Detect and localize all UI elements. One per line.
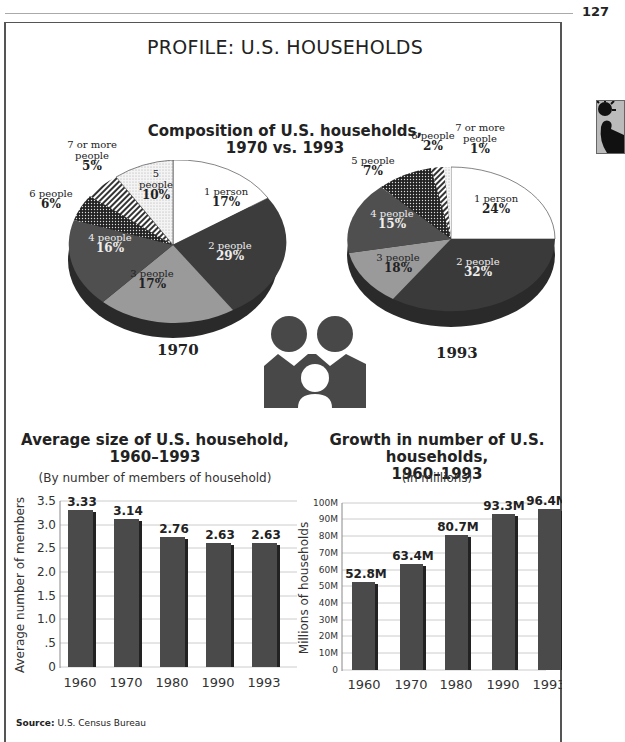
sun-hand-icon <box>596 100 625 154</box>
source-note: Source: U.S. Census Bureau <box>16 718 146 728</box>
svg-text:1990: 1990 <box>486 677 519 692</box>
svg-text:52.8M: 52.8M <box>345 567 387 581</box>
svg-text:Millions of households: Millions of households <box>297 522 311 654</box>
growth-subtitle: (In millions) <box>292 471 582 485</box>
growth-bar-chart: 010M20M 30M40M50M 60M70M80M 90M100M Mill… <box>292 490 562 700</box>
svg-text:1980: 1980 <box>155 675 188 690</box>
svg-text:1.0: 1.0 <box>37 612 56 626</box>
pie1970-label-6-people: 6 people6% <box>26 188 76 210</box>
svg-text:0: 0 <box>48 660 56 674</box>
svg-text:3.33: 3.33 <box>67 495 97 509</box>
svg-text:50M: 50M <box>319 581 338 591</box>
avg-size-bar-chart: 0.51.0 1.52.02.5 3.03.5 Average number o… <box>10 490 300 700</box>
svg-text:3.0: 3.0 <box>37 518 56 532</box>
source-text: U.S. Census Bureau <box>57 718 146 728</box>
source-label: Source: <box>16 718 55 728</box>
family-icon <box>262 308 368 408</box>
svg-text:1990: 1990 <box>201 675 234 690</box>
avg-size-title: Average size of U.S. household, 1960–199… <box>10 432 300 466</box>
svg-text:0: 0 <box>332 665 338 675</box>
svg-text:30M: 30M <box>319 615 338 625</box>
svg-text:93.3M: 93.3M <box>483 499 525 513</box>
svg-text:1970: 1970 <box>394 677 427 692</box>
growth-title-line1: Growth in number of U.S. households, <box>292 432 582 466</box>
pie1993-label-3-people: 3 people18% <box>368 252 428 274</box>
svg-text:1.5: 1.5 <box>37 589 56 603</box>
pie1970-label-4-people: 4 people16% <box>82 232 138 254</box>
svg-text:80M: 80M <box>319 531 338 541</box>
svg-text:20M: 20M <box>319 631 338 641</box>
pie1993-label-2-people: 2 people32% <box>448 256 508 278</box>
pie-title-line1: Composition of U.S. households, <box>120 123 450 140</box>
svg-text:1960: 1960 <box>347 677 380 692</box>
svg-text:40M: 40M <box>319 598 338 608</box>
svg-text:60M: 60M <box>319 565 338 575</box>
avg-size-title-line2: 1960–1993 <box>10 449 300 466</box>
pie1993-label-4-people: 4 people15% <box>364 208 420 230</box>
pie1970-label-5-people: 5 people10% <box>136 168 176 201</box>
pie1993-label-6-people: 6 people2% <box>408 130 458 152</box>
pie1970-label-7-people: 7 or more people5% <box>62 139 122 172</box>
top-rule <box>5 13 573 14</box>
svg-text:10M: 10M <box>319 648 338 658</box>
svg-text:Average number of members: Average number of members <box>13 497 27 673</box>
pie1993-label-1-person: 1 person24% <box>466 193 526 215</box>
svg-text:2.5: 2.5 <box>37 541 56 555</box>
pie1970-label-3-people: 3 people17% <box>122 268 182 290</box>
svg-text:1960: 1960 <box>63 675 96 690</box>
svg-text:1970: 1970 <box>109 675 142 690</box>
svg-text:3.14: 3.14 <box>113 504 143 518</box>
pie-title-line2: 1970 vs. 1993 <box>120 140 450 157</box>
pie1993-label-7-people: 7 or more people1% <box>452 122 508 155</box>
pie1993-label-5-people: 5 people7% <box>348 155 398 177</box>
svg-text:2.76: 2.76 <box>159 522 189 536</box>
pie1970-label-2-people: 2 people29% <box>200 240 260 262</box>
svg-text:1980: 1980 <box>439 677 472 692</box>
pie1970-label-1-person: 1 person17% <box>196 186 256 208</box>
svg-text:2.0: 2.0 <box>37 565 56 579</box>
svg-text:100M: 100M <box>313 498 338 508</box>
svg-text:96.4M: 96.4M <box>526 494 562 508</box>
svg-text:2.63: 2.63 <box>205 528 235 542</box>
pie-chart-title: Composition of U.S. households, 1970 vs.… <box>120 123 450 157</box>
page-number: 127 <box>582 4 609 19</box>
avg-size-title-line1: Average size of U.S. household, <box>10 432 300 449</box>
svg-text:2.63: 2.63 <box>251 528 281 542</box>
pie-year-1970: 1970 <box>157 341 199 359</box>
svg-text:.5: .5 <box>45 636 56 650</box>
svg-text:3.5: 3.5 <box>37 494 56 508</box>
pie-year-1993: 1993 <box>436 344 478 362</box>
svg-text:90M: 90M <box>319 514 338 524</box>
svg-text:1993: 1993 <box>247 675 280 690</box>
svg-text:1993: 1993 <box>532 677 562 692</box>
avg-size-subtitle: (By number of members of household) <box>10 471 300 485</box>
svg-text:63.4M: 63.4M <box>392 549 434 563</box>
svg-text:80.7M: 80.7M <box>437 520 479 534</box>
svg-text:70M: 70M <box>319 548 338 558</box>
page-title: PROFILE: U.S. HOUSEHOLDS <box>0 36 570 58</box>
